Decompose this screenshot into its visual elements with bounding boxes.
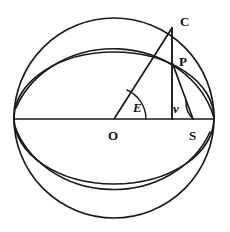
label-eccentric-anomaly-E: E (132, 100, 142, 115)
label-C: C (180, 14, 189, 29)
label-P: P (179, 54, 187, 69)
label-O: O (108, 128, 118, 143)
diagram-canvas: C P E ν O S (0, 0, 230, 232)
orbit-diagram-svg: C P E ν O S (0, 0, 230, 232)
label-S: S (189, 128, 196, 143)
label-true-anomaly-nu: ν (173, 101, 179, 116)
